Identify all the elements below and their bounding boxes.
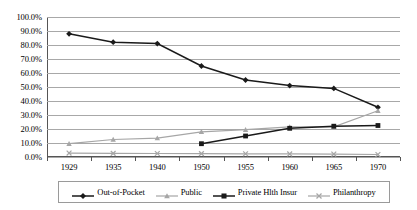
y-tick-label: 30.0% — [21, 111, 42, 120]
data-point-marker — [110, 39, 116, 45]
series-out-of-pocket — [66, 31, 381, 110]
x-axis-tick — [400, 157, 401, 161]
series-line — [69, 153, 378, 154]
data-point-marker — [80, 193, 86, 199]
series-philanthropy — [67, 151, 381, 157]
x-tick-label: 1950 — [193, 162, 210, 172]
data-point-marker — [199, 63, 205, 69]
data-point-marker — [243, 134, 248, 139]
x-tick-label: 1970 — [370, 162, 387, 172]
chart-legend: Out-of-PocketPublicPrivate Hlth InsurPhi… — [58, 181, 390, 203]
legend-label: Public — [181, 188, 202, 197]
series-line — [69, 34, 378, 108]
x-tick-label: 1960 — [281, 162, 298, 172]
x-tick-label: 1935 — [105, 162, 122, 172]
x-axis-tick — [135, 157, 136, 161]
legend-marker-x-icon — [308, 187, 330, 197]
legend-label: Private Hlth Insur — [238, 188, 297, 197]
legend-entry-out-of-pocket[interactable]: Out-of-Pocket — [72, 187, 144, 197]
legend-marker-square-icon — [213, 187, 235, 197]
data-point-marker — [221, 193, 226, 198]
y-tick-label: 100.0% — [16, 13, 42, 22]
data-point-marker — [243, 77, 249, 83]
chart-container: 0.0%10.0%20.0%30.0%40.0%50.0%60.0%70.0%8… — [0, 0, 417, 210]
data-point-marker — [66, 31, 72, 37]
data-point-marker — [331, 86, 337, 92]
x-axis-tick — [179, 157, 180, 161]
data-point-marker — [287, 126, 292, 131]
x-axis-tick — [47, 157, 48, 161]
legend-marker-triangle-icon — [156, 187, 178, 197]
x-axis-tick — [356, 157, 357, 161]
x-tick-label: 1965 — [326, 162, 343, 172]
x-tick-label: 1929 — [61, 162, 78, 172]
data-point-marker — [199, 141, 204, 146]
x-axis-tick — [312, 157, 313, 161]
y-tick-label: 40.0% — [21, 97, 42, 106]
y-tick-label: 90.0% — [21, 27, 42, 36]
legend-entry-public[interactable]: Public — [156, 187, 202, 197]
y-tick-label: 50.0% — [21, 83, 42, 92]
y-axis-labels: 0.0%10.0%20.0%30.0%40.0%50.0%60.0%70.0%8… — [0, 0, 47, 170]
data-point-marker — [376, 123, 381, 128]
y-tick-label: 10.0% — [21, 139, 42, 148]
x-axis-tick — [224, 157, 225, 161]
series-private-hlth-insur — [199, 123, 380, 146]
legend-entry-private-hlth-insur[interactable]: Private Hlth Insur — [213, 187, 297, 197]
y-tick-label: 20.0% — [21, 125, 42, 134]
x-axis-tick — [268, 157, 269, 161]
legend-marker-diamond-icon — [72, 187, 94, 197]
data-point-marker — [154, 41, 160, 47]
data-point-marker — [287, 83, 293, 89]
x-tick-label: 1955 — [237, 162, 254, 172]
y-tick-label: 0.0% — [25, 153, 42, 162]
data-point-marker — [331, 124, 336, 129]
x-tick-label: 1940 — [149, 162, 166, 172]
series-layer — [47, 17, 400, 157]
y-tick-label: 80.0% — [21, 41, 42, 50]
legend-label: Out-of-Pocket — [97, 188, 144, 197]
x-axis-labels: 19291935194019501955196019651970 — [47, 162, 400, 176]
plot-area — [47, 17, 400, 157]
y-tick-label: 60.0% — [21, 69, 42, 78]
y-tick-label: 70.0% — [21, 55, 42, 64]
legend-entry-philanthropy[interactable]: Philanthropy — [308, 187, 376, 197]
data-point-marker — [375, 108, 380, 113]
legend-label: Philanthropy — [333, 188, 376, 197]
x-axis-tick — [91, 157, 92, 161]
